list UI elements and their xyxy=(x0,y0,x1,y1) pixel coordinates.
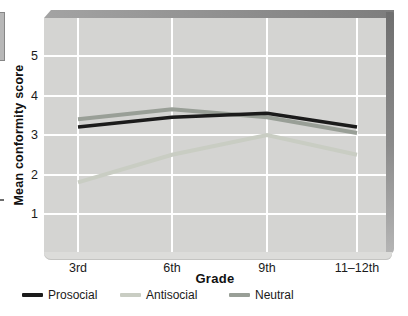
x-tick-label: 3rd xyxy=(43,261,113,275)
legend-swatch xyxy=(120,293,141,297)
y-tick-label: 4 xyxy=(16,88,38,104)
legend-item: Neutral xyxy=(229,288,294,302)
y-tick-label: 2 xyxy=(16,167,38,183)
y-tick-label: 3 xyxy=(16,127,38,143)
panel-bevel-right xyxy=(386,12,394,254)
panel-bevel-top xyxy=(44,10,394,18)
page-edge-dash xyxy=(0,199,4,201)
y-tick-label: 1 xyxy=(16,206,38,222)
legend-item: Prosocial xyxy=(22,288,97,302)
plot-panel xyxy=(44,10,394,260)
legend-label: Prosocial xyxy=(48,288,97,302)
page-edge-artifact xyxy=(0,12,5,61)
figure-page: Mean conformity score 12345 3rd6th9th11–… xyxy=(0,0,408,316)
legend-item: Antisocial xyxy=(120,288,197,302)
plot-area xyxy=(44,18,386,252)
legend-swatch xyxy=(229,293,250,297)
line-series-canvas xyxy=(44,18,386,252)
legend-label: Neutral xyxy=(255,288,294,302)
legend-swatch xyxy=(22,293,43,297)
legend-label: Antisocial xyxy=(146,288,197,302)
x-axis-title: Grade xyxy=(150,271,280,286)
panel-bevel-bottom xyxy=(44,252,392,260)
y-tick-label: 5 xyxy=(16,48,38,64)
antisocial-line xyxy=(78,135,357,182)
x-tick-label: 11–12th xyxy=(322,261,392,275)
